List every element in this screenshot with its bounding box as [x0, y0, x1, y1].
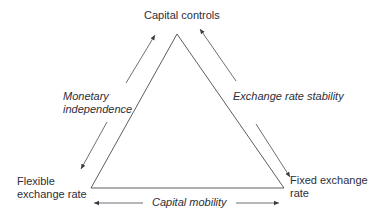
side-label-monetary-independence: Monetary independence — [63, 90, 132, 116]
side-label-exchange-rate-stability: Exchange rate stability — [233, 90, 344, 103]
vertex-label-capital-controls: Capital controls — [144, 9, 220, 22]
vertex-label-flexible-exchange-rate: Flexible exchange rate — [17, 175, 87, 201]
label-line: Monetary — [63, 90, 132, 103]
label-line: Flexible — [17, 175, 87, 188]
vertex-label-fixed-exchange-rate: Fixed exchange rate — [290, 174, 368, 200]
arrow-up-left-icon — [126, 35, 155, 83]
label-line: Fixed exchange — [290, 174, 368, 187]
arrow-down-left-icon — [81, 122, 107, 169]
label-line: rate — [290, 187, 368, 200]
arrow-down-right-icon — [256, 124, 290, 177]
label-line: exchange rate — [17, 188, 87, 201]
arrow-up-right-icon — [200, 29, 236, 81]
side-label-capital-mobility: Capital mobility — [152, 196, 227, 209]
label-line: independence — [63, 103, 132, 116]
